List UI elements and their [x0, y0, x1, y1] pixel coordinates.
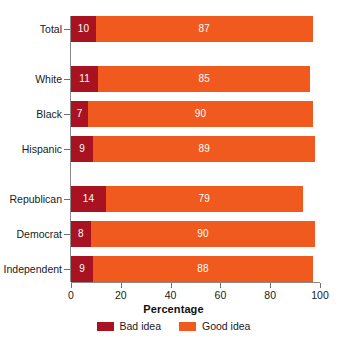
y-axis-tick-mark — [64, 29, 70, 30]
bar-row: 1087 — [71, 16, 320, 42]
bar-segment-good-idea: 90 — [88, 101, 312, 127]
y-axis-tick-label: Total — [0, 24, 62, 35]
y-axis-tick-mark — [64, 269, 70, 270]
x-axis-tick-mark — [320, 283, 321, 288]
bar-value-label: 79 — [106, 186, 303, 212]
bar-value-label: 11 — [71, 66, 98, 92]
legend-item: Bad idea — [97, 321, 161, 332]
legend-label: Bad idea — [120, 321, 161, 332]
y-axis-tick-label: Hispanic — [0, 144, 62, 155]
chart-legend: Bad ideaGood idea — [0, 321, 347, 332]
bar-segment-good-idea: 89 — [93, 136, 315, 162]
y-axis-tick-mark — [64, 234, 70, 235]
bar-segment-bad-idea: 8 — [71, 221, 91, 247]
bar-value-label: 8 — [71, 221, 91, 247]
bar-value-label: 9 — [71, 136, 93, 162]
y-axis-tick-label: Democrat — [0, 229, 62, 240]
bar-row: 989 — [71, 136, 320, 162]
x-axis-tick-mark — [220, 283, 221, 288]
y-axis-tick-label: Republican — [0, 194, 62, 205]
bar-segment-good-idea: 88 — [93, 256, 312, 282]
bar-value-label: 89 — [93, 136, 315, 162]
y-axis-tick-label: Black — [0, 109, 62, 120]
bar-value-label: 9 — [71, 256, 93, 282]
y-axis-tick-mark — [64, 149, 70, 150]
bar-segment-bad-idea: 14 — [71, 186, 106, 212]
bar-segment-good-idea: 90 — [91, 221, 315, 247]
stacked-bar-chart: 108711857909891479890988 TotalWhiteBlack… — [0, 0, 347, 340]
bar-segment-bad-idea: 11 — [71, 66, 98, 92]
bar-segment-bad-idea: 7 — [71, 101, 88, 127]
bar-segment-good-idea: 85 — [98, 66, 310, 92]
bar-value-label: 90 — [88, 101, 312, 127]
bar-segment-good-idea: 87 — [96, 16, 313, 42]
y-axis-tick-label: Independent — [0, 264, 62, 275]
bar-value-label: 10 — [71, 16, 96, 42]
x-axis-title: Percentage — [0, 303, 347, 315]
plot-area: 108711857909891479890988 — [71, 16, 320, 282]
x-axis-tick-label: 100 — [311, 290, 329, 301]
legend-item: Good idea — [179, 321, 250, 332]
y-axis-tick-mark — [64, 79, 70, 80]
bar-value-label: 7 — [71, 101, 88, 127]
x-axis-tick-mark — [270, 283, 271, 288]
y-axis-tick-mark — [64, 114, 70, 115]
bar-row: 890 — [71, 221, 320, 247]
bar-segment-bad-idea: 9 — [71, 256, 93, 282]
x-axis-tick-label: 40 — [165, 290, 177, 301]
legend-swatch — [179, 322, 196, 331]
bar-row: 790 — [71, 101, 320, 127]
bar-row: 988 — [71, 256, 320, 282]
bar-value-label: 90 — [91, 221, 315, 247]
bar-value-label: 88 — [93, 256, 312, 282]
x-axis-tick-mark — [121, 283, 122, 288]
bar-value-label: 87 — [96, 16, 313, 42]
x-axis-line — [71, 282, 320, 283]
bar-row: 1185 — [71, 66, 320, 92]
bar-value-label: 85 — [98, 66, 310, 92]
bar-segment-good-idea: 79 — [106, 186, 303, 212]
legend-swatch — [97, 322, 114, 331]
bar-segment-bad-idea: 9 — [71, 136, 93, 162]
x-axis-tick-label: 0 — [68, 290, 74, 301]
x-axis-tick-mark — [171, 283, 172, 288]
x-axis-tick-label: 20 — [115, 290, 127, 301]
y-axis-tick-mark — [64, 199, 70, 200]
bar-segment-bad-idea: 10 — [71, 16, 96, 42]
bar-value-label: 14 — [71, 186, 106, 212]
legend-label: Good idea — [202, 321, 250, 332]
bar-row: 1479 — [71, 186, 320, 212]
x-axis-tick-mark — [71, 283, 72, 288]
x-axis-tick-label: 80 — [264, 290, 276, 301]
x-axis-tick-label: 60 — [215, 290, 227, 301]
y-axis-tick-label: White — [0, 74, 62, 85]
